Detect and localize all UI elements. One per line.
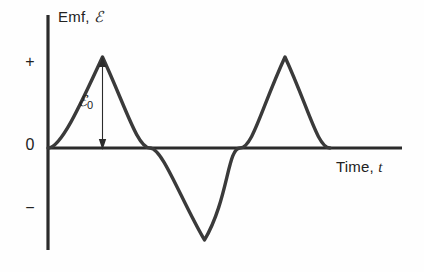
amplitude-subscript: 0 (87, 99, 93, 111)
y-axis-label-text: Emf, (58, 8, 94, 25)
emf-script-e-symbol: ℰ (94, 8, 103, 26)
time-t-symbol: t (378, 159, 382, 175)
y-tick-negative: − (19, 199, 41, 217)
x-axis-label-text: Time, (336, 158, 378, 175)
emf-vs-time-chart: Emf, ℰ Time, t + 0 − ℰ0 (0, 0, 424, 272)
y-tick-zero: 0 (19, 136, 41, 154)
amplitude-label: ℰ0 (78, 92, 93, 111)
amplitude-symbol: ℰ (78, 92, 87, 110)
amplitude-arrow (99, 56, 106, 150)
chart-canvas (0, 0, 424, 272)
y-tick-positive: + (19, 53, 41, 71)
y-axis-label: Emf, ℰ (58, 8, 103, 26)
x-axis-label: Time, t (336, 158, 383, 176)
